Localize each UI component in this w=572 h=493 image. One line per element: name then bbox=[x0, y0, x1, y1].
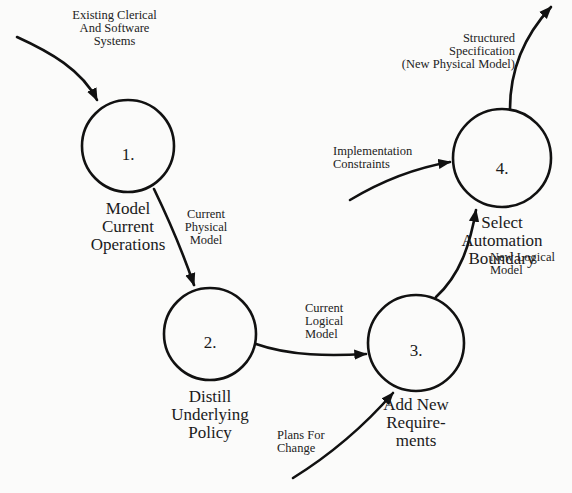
process-1-label: 1. Model Current Operations bbox=[78, 110, 178, 272]
flow-current-physical-model-label: Current Physical Model bbox=[176, 208, 236, 247]
flow-current-logical-model-arrow bbox=[256, 344, 366, 355]
flow-new-logical-model-label: New Logical Model bbox=[490, 251, 555, 277]
flow-structured-specification-label: Structured Specification (New Physical M… bbox=[375, 32, 515, 71]
process-3-label: 3. Add New Require- ments bbox=[366, 306, 466, 468]
process-3-name: Add New Require- ments bbox=[366, 396, 466, 450]
process-2-label: 2. Distill Underlying Policy bbox=[160, 298, 260, 460]
flow-plans-for-change-label: Plans For Change bbox=[277, 429, 325, 455]
flow-structured-specification-arrow bbox=[510, 7, 551, 109]
process-1-name: Model Current Operations bbox=[78, 200, 178, 254]
process-2-name: Distill Underlying Policy bbox=[160, 388, 260, 442]
flow-existing-systems-label: Existing Clerical And Software Systems bbox=[52, 9, 177, 48]
process-4-number: 4. bbox=[447, 160, 557, 178]
flow-implementation-constraints-label: Implementation Constraints bbox=[333, 145, 412, 171]
flow-current-logical-model-label: Current Logical Model bbox=[305, 302, 343, 341]
process-3-number: 3. bbox=[366, 342, 466, 360]
process-2-number: 2. bbox=[160, 334, 260, 352]
process-1-number: 1. bbox=[78, 146, 178, 164]
